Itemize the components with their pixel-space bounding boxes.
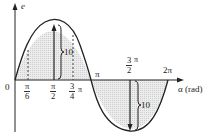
tick-three-halves-pi: 3 2 — [126, 56, 132, 74]
tick-pi-over-2: π 2 — [50, 82, 56, 100]
y-axis-label: e — [21, 2, 25, 11]
sine-wave-diagram — [0, 0, 224, 135]
tick-pi-over-6: π 6 — [24, 82, 30, 100]
tick-three-quarter-pi: 3 4 — [69, 82, 75, 100]
tick-three-halves-pi-suffix: π — [134, 56, 138, 64]
y-axis-arrow-icon — [13, 3, 18, 10]
peak-arrow-head-icon — [52, 24, 57, 31]
tick-pi: π — [95, 70, 100, 79]
positive-half-fill — [15, 31, 91, 80]
x-axis-label: α (rad) — [178, 85, 202, 94]
origin-label: 0 — [5, 83, 10, 92]
x-axis-arrow-icon — [177, 78, 184, 83]
negative-amplitude-label: 10 — [141, 101, 150, 110]
positive-amplitude-label: 10 — [64, 48, 73, 57]
tick-two-pi: 2π — [163, 66, 172, 75]
tick-three-quarter-pi-suffix: π — [78, 86, 82, 94]
